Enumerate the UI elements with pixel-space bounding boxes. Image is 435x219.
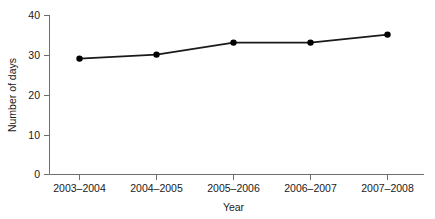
y-tick-label-0: 0	[34, 168, 40, 180]
x-tick-label-0: 2003–2004	[53, 182, 106, 194]
data-point-1	[153, 51, 159, 57]
y-tick-label-20: 20	[28, 89, 40, 101]
y-tick-label-10: 10	[28, 129, 40, 141]
chart-canvas: 40 30 20 10 0 2003–2004 2004–2005 2005–2…	[0, 0, 435, 219]
data-point-0	[76, 55, 82, 61]
x-tick-label-1: 2004–2005	[130, 182, 183, 194]
y-tick-label-40: 40	[28, 9, 40, 21]
x-tick-label-2: 2005–2006	[207, 182, 260, 194]
x-tick-label-4: 2007–2008	[361, 182, 414, 194]
data-point-4	[384, 31, 390, 37]
data-point-3	[307, 39, 313, 45]
data-point-2	[230, 39, 236, 45]
line-chart: 40 30 20 10 0 2003–2004 2004–2005 2005–2…	[0, 0, 435, 219]
y-tick-label-30: 30	[28, 49, 40, 61]
y-axis-title: Number of days	[6, 58, 18, 132]
x-tick-label-3: 2006–2007	[284, 182, 337, 194]
x-axis-title: Year	[223, 201, 245, 213]
